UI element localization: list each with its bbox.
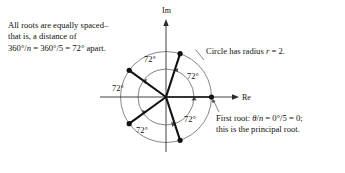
root-point-principal — [209, 94, 214, 99]
real-axis-label: Re — [242, 93, 251, 102]
note-equal-spacing-line3: 360°/n = 360°/5 = 72° apart. — [8, 43, 108, 54]
angle-arc-216-288 — [143, 113, 174, 125]
angle-arc-72-144 — [143, 69, 174, 81]
firstroot-prefix: First root: — [216, 113, 252, 123]
radius-note-suffix: = 2. — [269, 46, 285, 56]
note-circle-radius: Circle has radius r = 2. — [206, 46, 285, 57]
note-first-root: First root: θ/n = 0°/5 = 0; this is the … — [216, 113, 303, 136]
angle-label-1: 72° — [144, 55, 156, 64]
angle-label-2: 72° — [187, 72, 199, 81]
root-spoke-216deg — [129, 97, 166, 124]
angle-label-3: 72° — [112, 84, 124, 93]
root-point-288deg — [178, 138, 183, 143]
note-equal-spacing: All roots are equally spaced– that is, a… — [8, 20, 108, 54]
root-diagram-figure: Re Im 72° 72° 7 — [0, 0, 345, 173]
note-equal-spacing-line2: that is, a distance of — [8, 31, 108, 42]
note-first-root-line2: this is the principal root. — [216, 124, 303, 135]
note-equal-spacing-line1: All roots are equally spaced– — [8, 20, 108, 31]
imaginary-axis-label: Im — [162, 6, 172, 15]
root-point-72deg — [178, 51, 183, 56]
root-point-144deg — [127, 68, 132, 73]
note-first-root-line1: First root: θ/n = 0°/5 = 0; — [216, 113, 303, 124]
radius-note-leader-line — [196, 50, 205, 61]
root-point-216deg — [127, 121, 132, 126]
root-spoke-72deg — [166, 54, 180, 97]
firstroot-suffix: = 0°/5 = 0; — [263, 113, 302, 123]
real-axis-arrowhead — [232, 94, 239, 99]
firstroot-note-arrowhead — [212, 99, 216, 104]
angle-label-4: 72° — [136, 126, 148, 135]
radius-note-prefix: Circle has radius — [206, 46, 266, 56]
angle-label-5: 72° — [184, 115, 196, 124]
spacing-frac-suffix: = 360°/5 = 72° apart. — [31, 43, 106, 53]
root-spoke-288deg — [166, 97, 180, 140]
root-spoke-144deg — [129, 70, 166, 97]
firstroot-note-leader-line — [214, 101, 220, 113]
imaginary-axis-arrowhead — [163, 19, 168, 26]
spacing-frac-prefix: 360°/ — [8, 43, 27, 53]
